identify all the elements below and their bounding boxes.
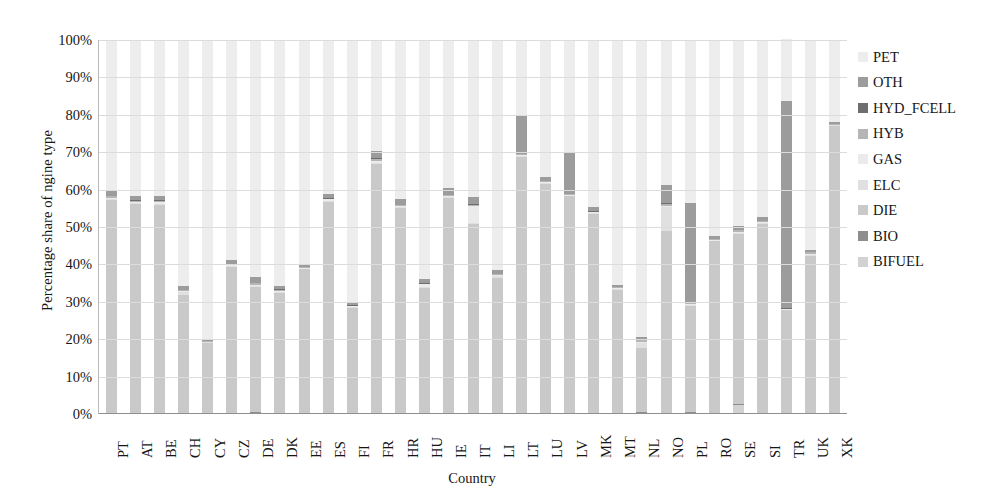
legend-item-hyb[interactable]: HYB [858, 121, 994, 147]
bar-segment-gas[interactable] [106, 198, 117, 199]
bar-segment-gas[interactable] [274, 291, 285, 292]
bar-segment-oth[interactable] [250, 277, 261, 282]
bar-segment-die[interactable] [781, 310, 792, 413]
bar-segment-die[interactable] [636, 348, 647, 412]
bar-segment-hyb[interactable] [323, 198, 334, 199]
bar-segment-hyb[interactable] [419, 283, 430, 284]
legend-item-gas[interactable]: GAS [858, 146, 994, 172]
bar-segment-gas[interactable] [250, 285, 261, 286]
bar-segment-elc[interactable] [757, 223, 768, 224]
bar-segment-gas[interactable] [395, 206, 406, 207]
bar-segment-elc[interactable] [250, 286, 261, 287]
bar-segment-hyb[interactable] [154, 200, 165, 202]
bar-segment-gas[interactable] [419, 284, 430, 287]
bar-segment-die[interactable] [829, 125, 840, 413]
bar-segment-pet[interactable] [395, 40, 406, 199]
bar-segment-hyb[interactable] [612, 287, 623, 288]
bar-segment-gas[interactable] [564, 195, 575, 196]
bar-segment-oth[interactable] [805, 250, 816, 252]
bar-segment-die[interactable] [395, 207, 406, 413]
bar-segment-die[interactable] [588, 213, 599, 413]
bar-segment-oth[interactable] [757, 217, 768, 221]
bar-segment-hyb[interactable] [250, 283, 261, 285]
bar-segment-pet[interactable] [829, 40, 840, 122]
bar-segment-pet[interactable] [709, 40, 720, 236]
bar-segment-pet[interactable] [564, 40, 575, 153]
legend-item-die[interactable]: DIE [858, 198, 994, 224]
bar-segment-die[interactable] [250, 287, 261, 412]
legend-item-pet[interactable]: PET [858, 44, 994, 70]
bar-segment-elc[interactable] [540, 183, 551, 184]
bar-segment-gas[interactable] [323, 199, 334, 200]
bar-segment-oth[interactable] [781, 101, 792, 309]
bar-segment-oth[interactable] [612, 285, 623, 287]
bar-segment-pet[interactable] [757, 40, 768, 217]
bar-segment-die[interactable] [299, 269, 310, 413]
bar-segment-hyb[interactable] [733, 230, 744, 231]
bar-segment-elc[interactable] [130, 203, 141, 204]
bar-segment-hyb[interactable] [757, 221, 768, 222]
bar-segment-gas[interactable] [516, 155, 527, 156]
bar-segment-gas[interactable] [781, 309, 792, 310]
bar-segment-hyb[interactable] [709, 239, 720, 240]
bar-segment-gas[interactable] [733, 232, 744, 233]
legend-item-elc[interactable]: ELC [858, 172, 994, 198]
bar-segment-die[interactable] [347, 308, 358, 413]
bar-segment-gas[interactable] [299, 268, 310, 269]
bar-segment-die[interactable] [274, 293, 285, 413]
bar-segment-pet[interactable] [733, 40, 744, 226]
bar-segment-elc[interactable] [154, 204, 165, 205]
bar-segment-oth[interactable] [540, 177, 551, 181]
bar-segment-die[interactable] [443, 198, 454, 413]
bar-segment-gas[interactable] [709, 240, 720, 241]
bar-segment-hyb[interactable] [805, 252, 816, 254]
bar-segment-elc[interactable] [347, 307, 358, 308]
bar-segment-gas[interactable] [685, 304, 696, 305]
bar-segment-oth[interactable] [130, 196, 141, 200]
bar-segment-die[interactable] [419, 288, 430, 413]
bar-segment-die[interactable] [612, 289, 623, 412]
bar-segment-pet[interactable] [371, 40, 382, 151]
bar-segment-die[interactable] [805, 256, 816, 413]
legend-item-oth[interactable]: OTH [858, 70, 994, 96]
bar-segment-elc[interactable] [106, 199, 117, 200]
bar-segment-die[interactable] [516, 157, 527, 413]
bar-segment-oth[interactable] [178, 286, 189, 290]
bar-segment-pet[interactable] [636, 40, 647, 337]
bar-segment-pet[interactable] [323, 40, 334, 194]
bar-segment-gas[interactable] [805, 254, 816, 255]
bar-segment-die[interactable] [130, 203, 141, 412]
bar-segment-elc[interactable] [805, 254, 816, 255]
bar-segment-hyb[interactable] [347, 305, 358, 306]
bar-segment-oth[interactable] [226, 260, 237, 264]
bar-segment-hyb[interactable] [202, 341, 213, 342]
bar-segment-oth[interactable] [709, 236, 720, 239]
bar-segment-elc[interactable] [492, 275, 503, 278]
bar-segment-pet[interactable] [154, 40, 165, 196]
bar-segment-die[interactable] [371, 164, 382, 413]
legend-item-bio[interactable]: BIO [858, 223, 994, 249]
bar-segment-elc[interactable] [443, 197, 454, 198]
bar-segment-die[interactable] [564, 196, 575, 413]
bar-segment-hyb[interactable] [130, 200, 141, 201]
bar-segment-pet[interactable] [805, 40, 816, 250]
bar-segment-gas[interactable] [612, 288, 623, 289]
bar-segment-pet[interactable] [419, 40, 430, 279]
bar-segment-pet[interactable] [492, 40, 503, 270]
bar-segment-hyb[interactable] [395, 205, 406, 206]
bar-segment-gas[interactable] [347, 306, 358, 307]
bar-segment-elc[interactable] [274, 291, 285, 292]
bar-segment-oth[interactable] [588, 207, 599, 211]
bar-segment-gas[interactable] [636, 342, 647, 343]
bar-segment-gas[interactable] [130, 202, 141, 203]
bar-segment-gas[interactable] [371, 161, 382, 163]
bar-segment-hyb[interactable] [443, 195, 454, 196]
bar-segment-oth[interactable] [323, 194, 334, 198]
bar-segment-die[interactable] [540, 184, 551, 412]
bar-segment-hyb[interactable] [178, 290, 189, 291]
bar-segment-hyb[interactable] [371, 159, 382, 161]
bar-segment-hyb[interactable] [564, 194, 575, 195]
bar-segment-hyb[interactable] [106, 196, 117, 198]
bar-segment-die[interactable] [733, 234, 744, 404]
bar-segment-die[interactable] [492, 278, 503, 413]
